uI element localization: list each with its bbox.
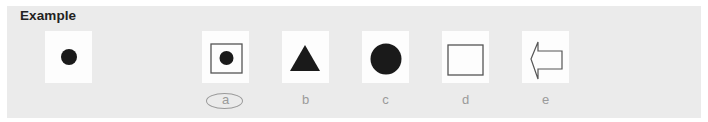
option-card-e[interactable] [522, 31, 569, 83]
filled-triangle-icon [282, 31, 329, 83]
option-label-e[interactable]: e [522, 92, 569, 107]
outline-rectangle-icon [442, 31, 489, 83]
option-label-d[interactable]: d [442, 92, 489, 107]
option-label-c[interactable]: c [362, 92, 409, 107]
small-filled-circle-icon [45, 31, 92, 83]
option-label-b[interactable]: b [282, 92, 329, 107]
large-filled-circle-icon [362, 31, 409, 83]
circle-in-square-icon [202, 31, 249, 83]
option-card-d[interactable] [442, 31, 489, 83]
option-card-b[interactable] [282, 31, 329, 83]
section-title: Example [20, 8, 76, 23]
option-card-c[interactable] [362, 31, 409, 83]
option-card-a[interactable] [202, 31, 249, 83]
option-label-a[interactable]: a [202, 92, 249, 107]
example-card [45, 31, 92, 83]
outline-left-arrow-icon [522, 31, 569, 83]
example-panel: Example a b c d [7, 6, 701, 118]
